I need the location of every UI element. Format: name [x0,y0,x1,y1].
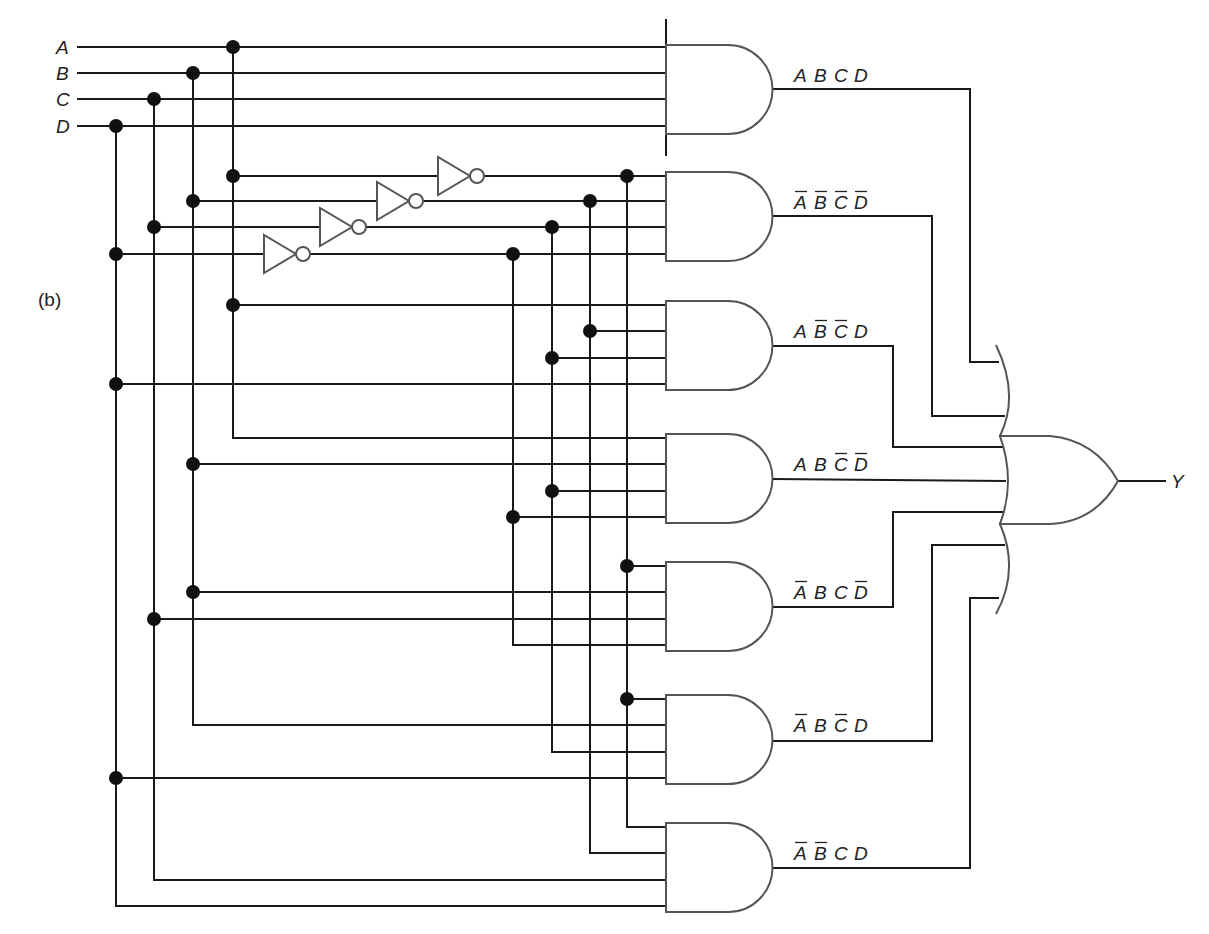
term-variable: A [793,321,807,342]
product-term-label: ABCD [793,454,868,475]
term-variable: D [854,715,868,736]
input-label-b: B [56,63,69,84]
and-gate-icon [666,172,773,261]
product-term-label: ABCD [793,65,868,86]
input-label-d: D [56,116,70,137]
inverter-bubble-icon [352,220,366,234]
inverter-bubble-icon [470,169,484,183]
junction-dot [506,247,520,261]
junction-dot [186,585,200,599]
term-variable: C [834,715,848,736]
term-variable: D [854,65,868,86]
junction-dot [226,298,240,312]
term-variable: D [854,454,868,475]
inverter-triangle-icon [438,157,470,195]
inverter-triangle-icon [264,235,296,273]
junction-dot [109,377,123,391]
or-gate-icon [1000,436,1118,524]
junction-dot [506,510,520,524]
junction-dot [109,771,123,785]
junction-dot [583,194,597,208]
term-variable: B [814,65,827,86]
product-term-label: ABCD [793,843,868,864]
junction-dot [186,194,200,208]
junction-dot [620,559,634,573]
junction-dot [109,247,123,261]
inverter-bubble-icon [296,247,310,261]
term-variable: A [793,65,807,86]
output-label-y: Y [1171,471,1185,492]
term-variable: B [814,582,827,603]
term-variable: A [793,582,807,603]
term-variable: D [854,843,868,864]
junction-dot [545,484,559,498]
input-label-c: C [56,89,70,110]
term-variable: B [814,192,827,213]
and-gate-icon [666,301,772,390]
term-variable: C [834,321,848,342]
product-term-label: ABCD [793,321,868,342]
term-variable: A [793,192,807,213]
term-variable: B [814,715,827,736]
term-variable: A [793,715,807,736]
junction-dot [226,169,240,183]
term-variable: B [814,454,827,475]
wire [772,512,1004,607]
wiring [78,20,1165,906]
term-variable: C [834,65,848,86]
inverter-triangle-icon [377,182,409,220]
junction-dot [545,220,559,234]
term-variable: C [834,843,848,864]
junction-dot [583,324,597,338]
and-gate-icon [666,45,773,134]
and-gate-icon [666,434,773,523]
junction-dot [147,612,161,626]
term-variable: C [834,192,848,213]
and-gate-icon [666,562,773,651]
junction-dot [620,692,634,706]
junction-dot [147,220,161,234]
product-term-label: ABCD [793,192,868,213]
term-variable: B [814,321,827,342]
term-variable: A [793,454,807,475]
product-term-label: ABCD [793,715,868,736]
junction-dot [545,351,559,365]
wire [772,479,1005,481]
term-variable: C [834,454,848,475]
input-label-a: A [55,37,69,58]
junction-dot [147,92,161,106]
product-term-label: ABCD [793,582,868,603]
term-variable: D [854,582,868,603]
part-label: (b) [38,289,61,310]
term-variable: C [834,582,848,603]
junction-dot [186,457,200,471]
and-gate-icon [666,695,772,784]
and-gate-icon [666,823,773,912]
term-variable: A [793,843,807,864]
term-variable: B [814,843,827,864]
junction-dot [620,169,634,183]
junction-dot [226,40,240,54]
junction-dot [109,119,123,133]
logic-circuit-diagram: (b) A B C D ABCDABCDABCDABCDABCDABCDABCD… [0,0,1209,934]
term-variable: D [854,192,868,213]
junction-dot [186,66,200,80]
term-variable: D [854,321,868,342]
inverter-bubble-icon [409,194,423,208]
junction-dots [109,40,634,785]
inverter-triangle-icon [320,208,352,246]
product-term-labels: ABCDABCDABCDABCDABCDABCDABCD [793,65,868,864]
